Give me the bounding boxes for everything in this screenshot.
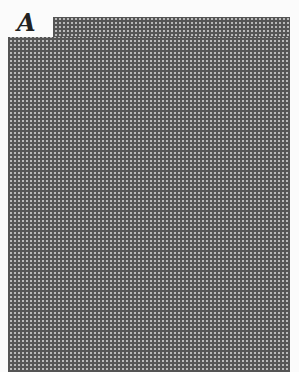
grid-pattern-main (8, 37, 290, 372)
figure-panel: A (0, 0, 299, 372)
panel-label: A (17, 10, 36, 36)
grid-pattern-top (53, 17, 290, 38)
